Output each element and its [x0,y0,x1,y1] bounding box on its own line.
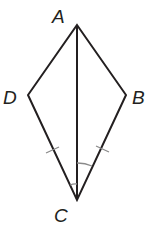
vertex-label-b: B [132,87,145,108]
vertex-label-c: C [54,205,68,226]
vertex-label-a: A [51,6,65,27]
kite-diagram: A B C D [0,0,157,228]
angle-arc-dca [70,184,77,185]
vertex-label-d: D [3,87,17,108]
angle-arc-acb [77,163,92,166]
